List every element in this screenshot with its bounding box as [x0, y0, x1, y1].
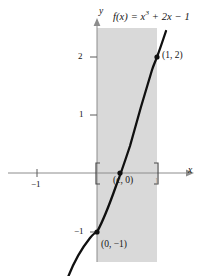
point-label-1-2: (1, 2) [162, 51, 183, 61]
tick-label-x-1: 1 [155, 178, 159, 186]
x-axis-label: x [188, 166, 192, 176]
tick-label-x-minus-1: −1 [31, 180, 41, 189]
function-expression-prefix: f(x) = x [113, 11, 145, 22]
function-expression-label: f(x) = x3 + 2x − 1 [113, 10, 190, 22]
y-axis-label: y [99, 7, 103, 17]
point-label-0-minus-1: (0, −1) [101, 240, 127, 250]
function-graph-figure [0, 0, 212, 276]
point-label-c-0: (c, 0) [113, 176, 133, 186]
shaded-interval-band [97, 28, 157, 262]
tick-label-y-minus-1: −1 [74, 227, 84, 236]
point-marker-1-2 [154, 54, 159, 59]
function-expression-suffix: + 2x − 1 [149, 11, 190, 22]
y-axis-arrow [94, 18, 101, 26]
tick-label-y-1: 1 [79, 110, 84, 119]
tick-label-y-2: 2 [78, 52, 83, 61]
caption-strip [0, 268, 212, 276]
point-marker-0-minus-1 [94, 229, 99, 234]
